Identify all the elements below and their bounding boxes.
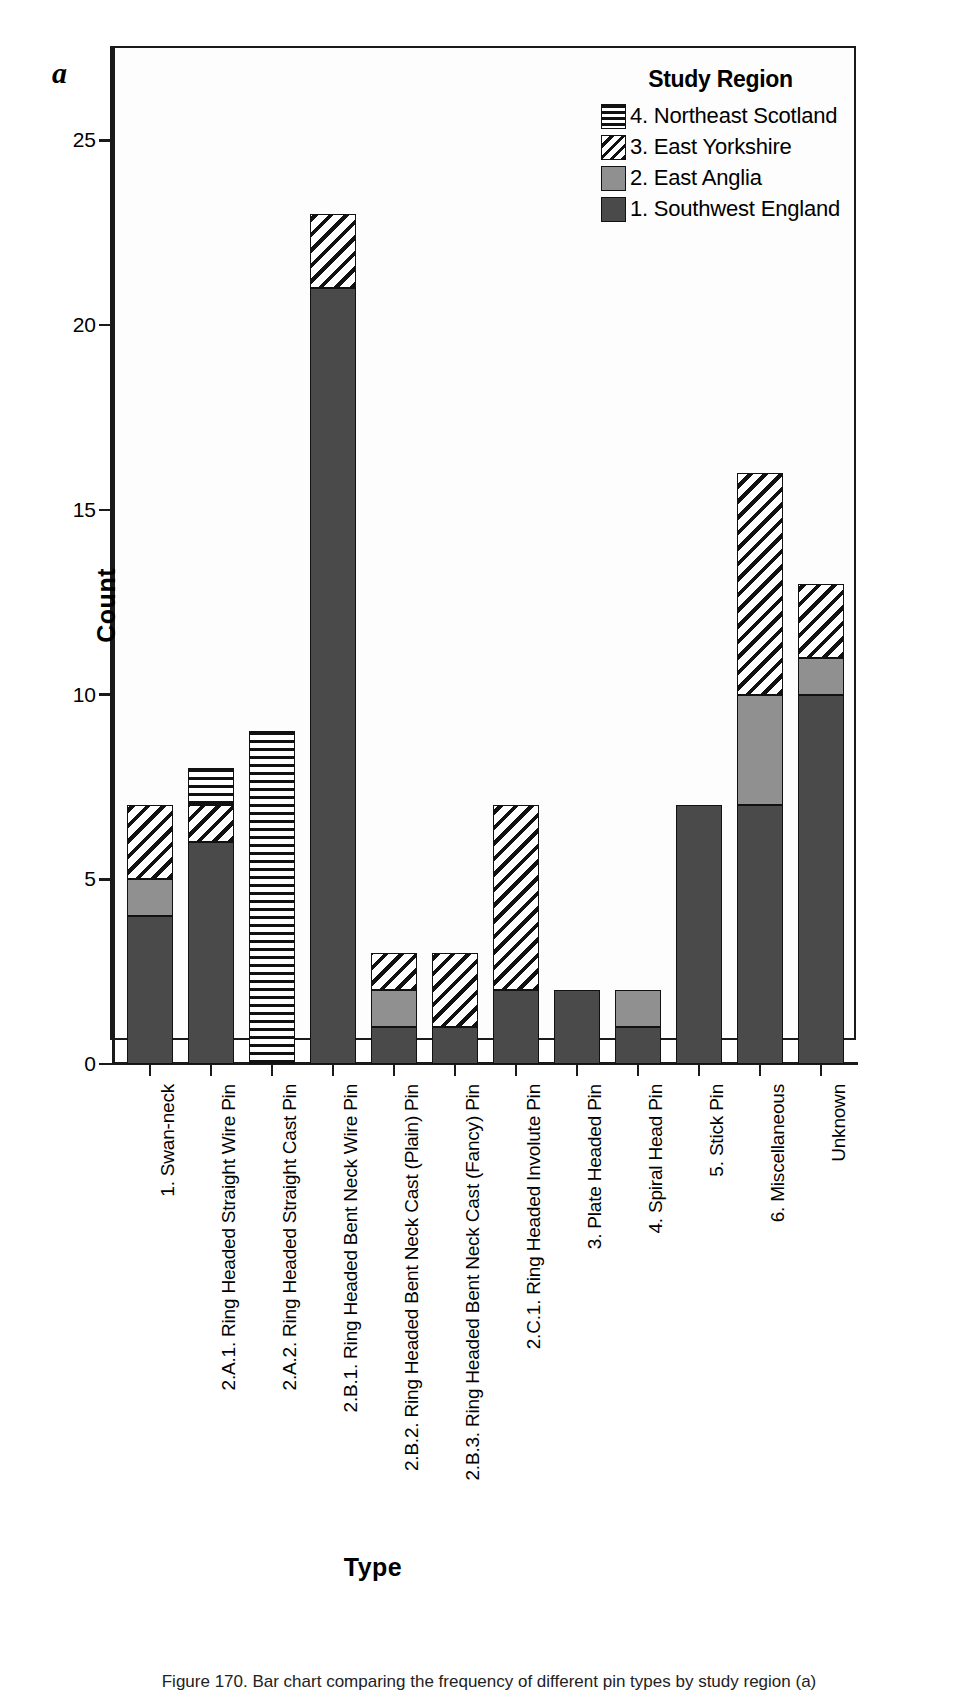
x-axis-tick [515,1064,518,1076]
bar-segment[interactable] [188,805,234,842]
bar-segment[interactable] [432,1027,478,1064]
bar-segment[interactable] [615,990,661,1027]
plot-area: 0510152025 Count 1. Swan-neck2.A.1. Ring… [112,48,854,1038]
bar-group[interactable] [310,48,356,1064]
x-axis-category-label: 2.A.1. Ring Headed Straight Wire Pin [218,1084,240,1390]
x-axis-tick [454,1064,457,1076]
x-axis-category-label: Unknown [828,1084,850,1162]
x-axis-category-label: 2.B.3. Ring Headed Bent Neck Cast (Fancy… [462,1084,484,1481]
figure-caption: Figure 170. Bar chart comparing the freq… [0,1672,978,1692]
bar-segment[interactable] [798,584,844,658]
bar-group[interactable] [493,48,539,1064]
y-axis-tick-label: 25 [46,128,96,152]
bar-segment[interactable] [127,879,173,916]
y-axis-tick [99,693,112,696]
bar-segment[interactable] [310,214,356,288]
x-axis-tick [332,1064,335,1076]
x-axis-tick [149,1064,152,1076]
bar-segment[interactable] [371,990,417,1027]
bar-segment[interactable] [493,805,539,990]
y-axis-tick-labels: 0510152025 [46,48,96,1064]
bar-segment[interactable] [737,473,783,695]
y-axis-tick-label: 10 [46,683,96,707]
x-axis-tick [393,1064,396,1076]
x-axis-category-label: 6. Miscellaneous [767,1084,789,1222]
bar-group[interactable] [188,48,234,1064]
bar-segment[interactable] [493,990,539,1064]
x-axis-tick [637,1064,640,1076]
x-axis-category-label: 5. Stick Pin [706,1084,728,1177]
bar-segment[interactable] [249,731,295,1064]
x-axis-tick [759,1064,762,1076]
bar-group[interactable] [737,48,783,1064]
y-axis-title: Count [92,568,121,643]
y-axis-tick-label: 5 [46,867,96,891]
bar-group[interactable] [615,48,661,1064]
bar-group[interactable] [554,48,600,1064]
y-axis-tick [99,1063,112,1066]
y-axis-tick-label: 20 [46,313,96,337]
x-axis-category-label: 2.B.2. Ring Headed Bent Neck Cast (Plain… [401,1084,423,1471]
bar-segment[interactable] [127,916,173,1064]
x-axis-tick [210,1064,213,1076]
y-axis-tick [99,324,112,327]
bar-group[interactable] [676,48,722,1064]
x-axis-tick [576,1064,579,1076]
x-axis-tick [271,1064,274,1076]
bar-group[interactable] [249,48,295,1064]
y-axis-tick-label: 0 [46,1052,96,1076]
y-axis-tick [99,139,112,142]
bar-segment[interactable] [798,658,844,695]
x-axis-tick [820,1064,823,1076]
y-axis-line [112,48,115,1064]
y-axis-tick [99,878,112,881]
bar-segment[interactable] [798,695,844,1064]
bar-segment[interactable] [127,805,173,879]
x-axis-category-label: 2.B.1. Ring Headed Bent Neck Wire Pin [340,1084,362,1412]
bar-segment[interactable] [737,695,783,806]
x-axis-category-label: 3. Plate Headed Pin [584,1084,606,1249]
bar-segment[interactable] [188,768,234,805]
y-axis-tick [99,509,112,512]
x-axis-title: Type [344,1553,403,1582]
bar-segment[interactable] [371,1027,417,1064]
bar-segment[interactable] [188,842,234,1064]
bar-segment[interactable] [371,953,417,990]
x-axis-category-label: 4. Spiral Head Pin [645,1084,667,1234]
bar-group[interactable] [798,48,844,1064]
x-axis-category-label: 1. Swan-neck [157,1084,179,1197]
bar-group[interactable] [371,48,417,1064]
bar-group[interactable] [127,48,173,1064]
x-axis-tick [698,1064,701,1076]
y-axis-tick-label: 15 [46,498,96,522]
x-axis-category-label: 2.C.1. Ring Headed Involute Pin [523,1084,545,1349]
bar-segment[interactable] [676,805,722,1064]
bar-segment[interactable] [554,990,600,1064]
bar-group[interactable] [432,48,478,1064]
x-axis-category-label: 2.A.2. Ring Headed Straight Cast Pin [279,1084,301,1390]
bar-segment[interactable] [310,288,356,1064]
bar-segment[interactable] [737,805,783,1064]
bar-segment[interactable] [615,1027,661,1064]
bar-segment[interactable] [432,953,478,1027]
